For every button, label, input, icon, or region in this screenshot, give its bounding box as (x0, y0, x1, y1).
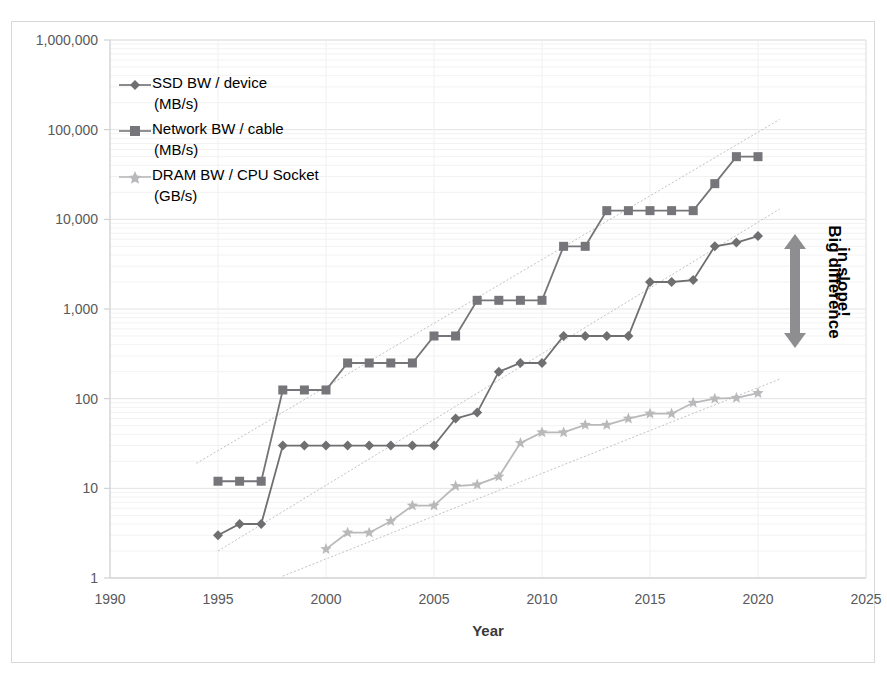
data-point (365, 358, 374, 367)
figure-canvas: 1101001,00010,000100,0001,000,0001990199… (0, 0, 887, 686)
data-point (538, 296, 547, 305)
trendline (283, 379, 780, 576)
data-point (688, 275, 698, 285)
x-tick-label: 2025 (850, 591, 881, 607)
data-point (213, 530, 223, 540)
data-point (364, 441, 374, 451)
legend-label-ssd-line1: SSD BW / device (152, 74, 267, 91)
data-point (559, 242, 568, 251)
data-point (667, 277, 677, 287)
data-point (516, 296, 525, 305)
data-point (645, 277, 655, 287)
data-point (300, 385, 309, 394)
data-point (430, 331, 439, 340)
slope-annotation: Big difference in slope! (806, 218, 836, 378)
legend-marker-star-icon (118, 170, 152, 184)
y-tick-label: 1,000,000 (36, 32, 98, 48)
data-point (407, 441, 417, 451)
data-point (667, 206, 676, 215)
series-diamond (213, 231, 763, 540)
data-point (646, 206, 655, 215)
data-point (623, 331, 633, 341)
x-tick-label: 1990 (94, 591, 125, 607)
data-point (624, 206, 633, 215)
data-point (363, 527, 374, 538)
data-point (709, 393, 720, 404)
data-point (515, 437, 526, 448)
data-point (558, 426, 569, 437)
data-point (235, 477, 244, 486)
data-point (257, 477, 266, 486)
data-point (408, 358, 417, 367)
data-point (601, 419, 612, 430)
x-tick-label: 2005 (418, 591, 449, 607)
data-point (515, 358, 525, 368)
y-tick-label: 1 (90, 570, 98, 586)
legend-marker-diamond-icon (118, 78, 152, 92)
data-point (321, 441, 331, 451)
data-point (214, 477, 223, 486)
data-point (235, 519, 245, 529)
legend-label-dram-line1: DRAM BW / CPU Socket (152, 166, 319, 183)
series-line (218, 236, 758, 535)
data-point (256, 519, 266, 529)
x-tick-label: 2015 (634, 591, 665, 607)
data-point (731, 392, 742, 403)
double-arrow-icon (784, 234, 806, 348)
legend-item-dram[interactable]: DRAM BW / CPU Socket (GB/s) (118, 166, 378, 212)
legend-item-network[interactable]: Network BW / cable (MB/s) (118, 120, 378, 166)
x-tick-label: 2000 (310, 591, 341, 607)
data-point (278, 441, 288, 451)
data-point (602, 331, 612, 341)
legend: SSD BW / device (MB/s) Network BW / cabl… (118, 74, 378, 212)
data-point (472, 408, 482, 418)
data-point (494, 296, 503, 305)
data-point (580, 331, 590, 341)
x-tick-label: 2020 (742, 591, 773, 607)
data-point (343, 358, 352, 367)
trendline (218, 209, 780, 551)
legend-item-ssd[interactable]: SSD BW / device (MB/s) (118, 74, 378, 120)
data-point (493, 471, 504, 482)
data-point (581, 242, 590, 251)
y-tick-label: 10 (82, 480, 98, 496)
data-point (451, 331, 460, 340)
data-point (623, 413, 634, 424)
y-tick-label: 10,000 (55, 211, 98, 227)
x-tick-label: 1995 (202, 591, 233, 607)
data-point (710, 179, 719, 188)
data-point (494, 367, 504, 377)
data-point (322, 385, 331, 394)
data-point (732, 152, 741, 161)
data-point (689, 206, 698, 215)
legend-marker-square-icon (118, 124, 152, 138)
x-tick-label: 2010 (526, 591, 557, 607)
legend-label-ssd-line2: (MB/s) (154, 95, 198, 112)
slope-annotation-line2: in slope! (833, 202, 853, 362)
data-point (386, 358, 395, 367)
data-point (666, 408, 677, 419)
y-tick-label: 100 (75, 391, 99, 407)
legend-label-network-line2: (MB/s) (154, 141, 198, 158)
data-point (754, 152, 763, 161)
data-point (299, 441, 309, 451)
x-axis-title: Year (472, 622, 504, 639)
data-point (473, 296, 482, 305)
data-point (579, 419, 590, 430)
legend-label-dram-line2: (GB/s) (154, 187, 197, 204)
data-point (343, 441, 353, 451)
data-point (386, 441, 396, 451)
legend-label-network-line1: Network BW / cable (152, 120, 284, 137)
y-tick-label: 100,000 (47, 122, 98, 138)
data-point (278, 385, 287, 394)
y-tick-label: 1,000 (63, 301, 98, 317)
data-point (710, 241, 720, 251)
data-point (602, 206, 611, 215)
